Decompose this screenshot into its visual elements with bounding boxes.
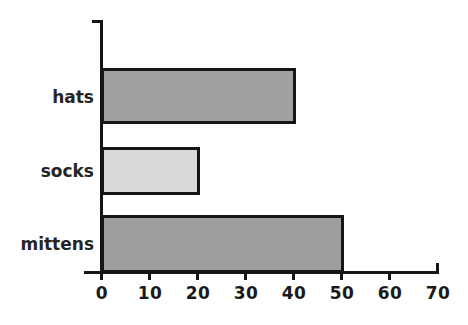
x-tick-label-10: 10: [130, 283, 170, 303]
x-tick-label-30: 30: [226, 283, 266, 303]
category-label-mittens: mittens: [20, 234, 94, 254]
x-tick-60: [388, 271, 391, 280]
x-tick-70: [436, 263, 439, 272]
x-tick-label-60: 60: [370, 283, 410, 303]
x-tick-30: [244, 271, 247, 280]
x-tick-0: [100, 271, 103, 280]
bar-hats: [101, 68, 296, 124]
y-axis-top-cap: [92, 20, 101, 23]
bar-mittens: [101, 215, 344, 273]
x-tick-50: [340, 271, 343, 280]
x-tick-label-20: 20: [178, 283, 218, 303]
bar-chart: hats socks mittens 0 10 20 30 40 50 60 7…: [0, 0, 468, 325]
x-tick-label-0: 0: [82, 283, 122, 303]
x-tick-label-70: 70: [418, 283, 458, 303]
x-tick-label-40: 40: [274, 283, 314, 303]
bar-socks: [101, 147, 200, 195]
x-tick-label-50: 50: [322, 283, 362, 303]
x-tick-20: [196, 271, 199, 280]
category-label-socks: socks: [41, 161, 94, 181]
x-tick-40: [292, 271, 295, 280]
category-label-hats: hats: [52, 87, 94, 107]
x-tick-10: [148, 271, 151, 280]
